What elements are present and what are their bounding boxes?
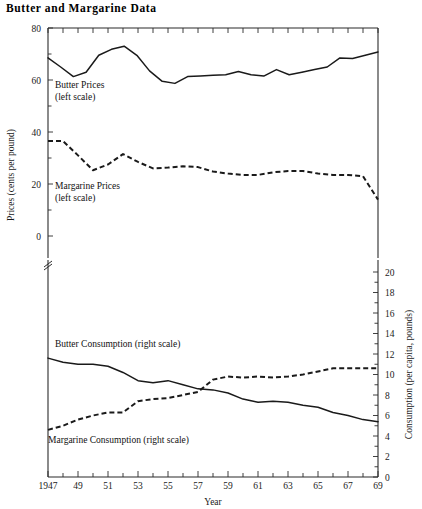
x-axis-tick-label: 1947 xyxy=(39,481,58,491)
right-axis-tick-label: 2 xyxy=(385,452,390,462)
margarine-prices-label: Margarine Prices xyxy=(55,181,120,191)
right-axis-tick-label: 12 xyxy=(385,350,395,360)
x-axis-tick-label: 55 xyxy=(163,481,173,491)
right-axis-tick-label: 8 xyxy=(385,391,390,401)
left-axis-tick-label: 0 xyxy=(36,232,41,242)
x-axis-tick-label: 65 xyxy=(313,481,323,491)
x-axis-tick-label: 51 xyxy=(103,481,113,491)
left-axis-tick-label: 80 xyxy=(32,24,42,34)
x-axis-tick-label: 63 xyxy=(283,481,293,491)
butter-prices-sublabel: (left scale) xyxy=(55,92,95,103)
left-axis-title: Prices (cents per pound) xyxy=(6,129,17,221)
x-axis-tick-label: 59 xyxy=(223,481,233,491)
right-axis-tick-label: 4 xyxy=(385,432,390,442)
right-axis-tick-label: 6 xyxy=(385,411,390,421)
chart-canvas: 020406080Prices (cents per pound) 024681… xyxy=(0,0,422,509)
left-axis-tick-label: 60 xyxy=(32,76,42,86)
right-axis: 02468101214161820Consumption (per capita… xyxy=(48,260,415,483)
x-axis-tick-label: 53 xyxy=(133,481,143,491)
right-axis-tick-label: 18 xyxy=(385,288,395,298)
left-axis-tick-label: 20 xyxy=(32,180,42,190)
right-axis-tick-label: 16 xyxy=(385,309,395,319)
x-axis-title: Year xyxy=(204,497,222,507)
margarine-consumption-line xyxy=(48,368,378,430)
right-axis-title: Consumption (per capita, pounds) xyxy=(404,310,415,439)
x-axis-tick-label: 49 xyxy=(73,481,83,491)
left-axis-tick-label: 40 xyxy=(32,128,42,138)
right-axis-tick-label: 14 xyxy=(385,329,395,339)
right-axis-tick-label: 20 xyxy=(385,268,395,278)
series-annotations: Butter Prices(left scale)Margarine Price… xyxy=(48,80,189,446)
margarine-consumption-label: Margarine Consumption (right scale) xyxy=(48,435,189,446)
x-axis: 19474951535557596163656769Year xyxy=(39,471,384,507)
left-axis: 020406080Prices (cents per pound) xyxy=(6,24,378,271)
right-axis-tick-label: 10 xyxy=(385,370,395,380)
margarine-prices-sublabel: (left scale) xyxy=(55,193,95,204)
right-axis-tick-label: 0 xyxy=(385,473,390,483)
butter-prices-label: Butter Prices xyxy=(55,80,105,90)
x-axis-tick-label: 57 xyxy=(193,481,203,491)
data-series-group xyxy=(48,46,378,430)
butter-consumption-label: Butter Consumption (right scale) xyxy=(55,339,180,350)
butter-consumption-line xyxy=(48,358,378,422)
x-axis-tick-label: 61 xyxy=(253,481,263,491)
x-axis-tick-label: 67 xyxy=(343,481,353,491)
x-axis-tick-label: 69 xyxy=(373,481,383,491)
butter-prices-line xyxy=(48,46,378,83)
